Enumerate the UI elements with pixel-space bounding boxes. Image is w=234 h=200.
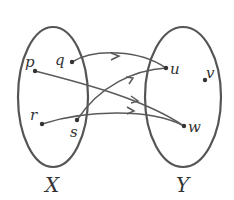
set-label-x: X [43, 173, 60, 197]
point-w [182, 124, 186, 128]
arrowhead-q-to-u [111, 53, 119, 60]
mapping-diagram: p q r s u v w X Y [0, 0, 234, 200]
mapping-r-to-w [42, 113, 184, 126]
set-label-y: Y [176, 173, 191, 197]
point-r [40, 122, 44, 126]
set-y-oval [145, 27, 221, 167]
set-x-oval [18, 27, 88, 167]
mapping-s-to-u [77, 68, 166, 120]
point-q [70, 60, 74, 64]
label-u: u [170, 60, 180, 78]
label-r: r [30, 106, 38, 124]
point-u [164, 66, 168, 70]
label-q: q [55, 51, 65, 69]
label-s: s [70, 123, 78, 141]
label-w: w [188, 118, 201, 136]
label-v: v [206, 64, 215, 82]
label-p: p [25, 53, 35, 71]
point-s [75, 118, 79, 122]
